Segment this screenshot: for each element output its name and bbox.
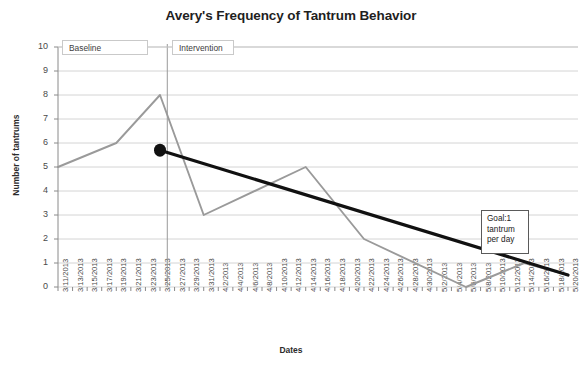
chart-container: Avery's Frequency of Tantrum Behavior Nu… <box>0 0 582 370</box>
intervention-phase-label: Intervention <box>172 40 234 55</box>
baseline-phase-label: Baseline <box>62 40 148 55</box>
trend-start-marker <box>154 144 166 157</box>
goal-annotation: Goal:1 tantrum per day <box>481 210 529 254</box>
